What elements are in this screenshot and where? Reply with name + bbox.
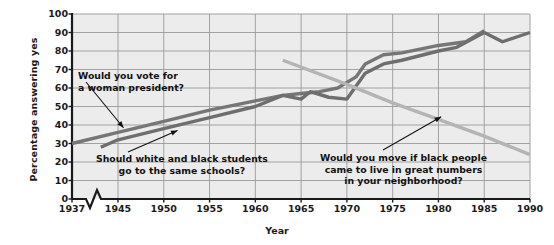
annotation-same-schools: Should white and black students go to th… <box>96 153 268 176</box>
x-axis-title: Year <box>0 225 554 236</box>
annotation-would-move: Would you move if black people came to l… <box>320 152 487 187</box>
annotation-woman-president: Would you vote for a woman president? <box>78 70 184 93</box>
plot-area <box>0 0 554 245</box>
percentage-answering-yes-line-chart: Percentage answering yes 010203040506070… <box>0 0 554 245</box>
